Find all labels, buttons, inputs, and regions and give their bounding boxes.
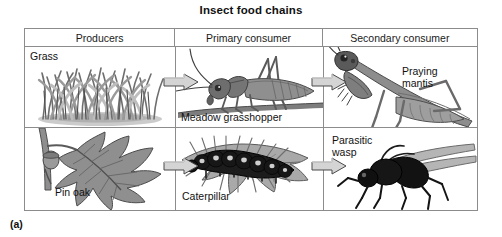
caption-praying-mantis: Praying mantis — [402, 65, 438, 89]
arrow-caterpillar-to-wasp — [311, 157, 347, 175]
table-row: Grass — [25, 47, 477, 128]
oak-leaf-acorn-illustration — [25, 128, 175, 210]
table-header-row: Producers Primary consumer Secondary con… — [25, 29, 477, 47]
caption-parasitic-wasp: Parasitic wasp — [332, 134, 372, 158]
table-body: Grass — [25, 47, 477, 210]
cell-pin-oak: Pin oak — [25, 128, 175, 210]
column-header-primary-consumer: Primary consumer — [174, 29, 321, 46]
caption-pin-oak: Pin oak — [55, 186, 90, 198]
table-row: Pin oak — [25, 128, 477, 210]
caption-grass: Grass — [30, 50, 58, 62]
caption-caterpillar: Caterpillar — [182, 190, 230, 202]
figure-title: Insect food chains — [0, 4, 502, 16]
insect-food-chains-figure: Insect food chains Producers Primary con… — [0, 0, 502, 237]
figure-part-label: (a) — [10, 218, 23, 230]
column-header-producers: Producers — [25, 29, 174, 46]
cell-grass: Grass — [25, 47, 175, 127]
food-chain-table: Producers Primary consumer Secondary con… — [24, 28, 478, 211]
caption-meadow-grasshopper: Meadow grasshopper — [181, 111, 282, 123]
arrow-grasshopper-to-mantis — [311, 73, 347, 91]
arrow-oak-to-caterpillar — [163, 157, 199, 175]
column-header-secondary-consumer: Secondary consumer — [322, 29, 477, 46]
arrow-grass-to-grasshopper — [163, 73, 199, 91]
